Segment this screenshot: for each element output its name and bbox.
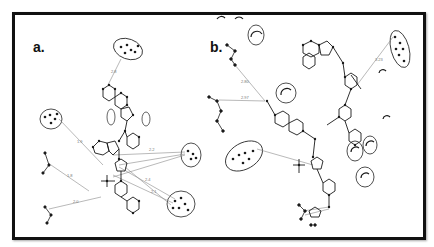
residue-circle-small [142, 112, 150, 126]
distance-label: 2.80 [241, 79, 250, 84]
residue-circle [276, 83, 296, 103]
residue-fragment [208, 44, 317, 227]
panel-b-molecule-diagram: 2.80 2.97 3.23 [205, 15, 423, 237]
residue-circle [220, 135, 268, 178]
figure-frame: a. [12, 12, 426, 240]
distance-label: 2.4 [145, 177, 151, 182]
ligand-atoms [266, 40, 356, 208]
residue-circle [363, 136, 377, 154]
residue-circle [167, 191, 195, 217]
ligand-bonds [267, 41, 361, 217]
residue-circle [110, 34, 145, 63]
panel-a-molecule-diagram: 2.8 1.9 1.8 2.0 2.2 2.4 2.1 [15, 15, 205, 237]
residue-circle-small [107, 109, 115, 125]
distance-label: 2.0 [73, 199, 79, 204]
distance-label: 3.23 [375, 57, 384, 62]
ligand-bonds [93, 85, 139, 213]
panel-b: b. [205, 15, 423, 237]
panel-a: a. [15, 15, 205, 237]
distance-label: 2.1 [151, 189, 157, 194]
residue-circle [386, 28, 413, 69]
distance-label: 1.8 [67, 173, 73, 178]
residue-circle [248, 25, 264, 45]
hydrogen-bonds [49, 59, 185, 209]
residue-circle [356, 167, 374, 187]
distance-label: 2.97 [241, 95, 250, 100]
distance-label: 2.8 [111, 69, 117, 74]
residue-circle [40, 109, 62, 129]
residue-fragment [42, 152, 52, 224]
distance-label: 1.9 [77, 139, 83, 144]
hydrogen-bonds [219, 37, 393, 215]
distance-label: 2.2 [149, 147, 155, 152]
